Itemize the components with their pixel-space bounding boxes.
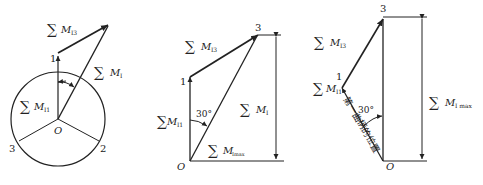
label-m-sub: I3 <box>71 29 77 36</box>
origin-label: O <box>177 161 185 172</box>
angle-arc <box>58 82 74 87</box>
point-3-label: 3 <box>380 3 386 14</box>
label-m-sub: Imax <box>232 151 245 157</box>
point-1-label: 1 <box>180 76 186 87</box>
label-m-sub: I max <box>455 102 473 109</box>
panel-c-labels: 3 1 O 30° 第一曲柄的位置 ∑ M I3 ∑ M I1 ∑ M I ma… <box>313 3 473 172</box>
sum-symbol: ∑ <box>208 142 218 158</box>
label-m-sub: I <box>120 72 123 79</box>
point-2-label: 2 <box>100 143 106 154</box>
sum-symbol: ∑ <box>47 21 57 37</box>
vector-m-imax <box>190 36 257 161</box>
sum-symbol: ∑ <box>185 38 195 54</box>
vector-m-i3 <box>342 19 383 88</box>
origin-label: O <box>54 125 62 136</box>
point-3-label: 3 <box>255 22 261 33</box>
sum-symbol: ∑ <box>20 98 30 114</box>
sum-symbol: ∑ <box>94 64 104 80</box>
angle-label: 30° <box>196 109 212 119</box>
angle-arc <box>190 120 207 126</box>
point-3-label: 3 <box>9 143 15 154</box>
vector-diagram: 1 3 2 O ∑ M I3 ∑ M I ∑ M I1 3 1 O 30° ∑ … <box>0 0 483 185</box>
crank-position-note: 第一曲柄的位置 <box>341 95 382 155</box>
panel-a <box>11 25 108 166</box>
sum-symbol: ∑ <box>240 101 250 117</box>
label-m-sub: I3 <box>340 42 346 49</box>
sum-symbol: ∑ <box>314 34 324 50</box>
origin-label: O <box>386 161 394 172</box>
label-m-sub: I <box>266 109 269 116</box>
panel-b <box>190 35 284 161</box>
crank-line-3 <box>19 119 58 141</box>
label-m-sub: I1 <box>177 121 183 128</box>
panel-a-labels: 1 3 2 O ∑ M I3 ∑ M I ∑ M I1 <box>9 21 123 154</box>
label-m-sub: I1 <box>336 88 342 95</box>
point-1-label: 1 <box>50 53 56 64</box>
sum-symbol: ∑ <box>429 94 439 110</box>
label-m-sub: I3 <box>211 46 217 53</box>
panel-c <box>342 17 427 161</box>
sum-symbol: ∑ <box>157 113 167 129</box>
label-m-sub: I1 <box>44 106 50 113</box>
sum-symbol: ∑ <box>313 80 323 96</box>
point-1-label: 1 <box>336 71 342 82</box>
crank-line-2 <box>58 119 99 141</box>
